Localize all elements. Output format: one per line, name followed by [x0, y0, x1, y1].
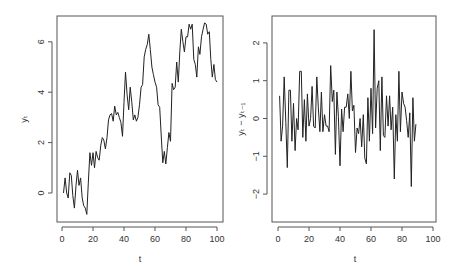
y-tick-label: 1 [251, 78, 261, 83]
y-tick-label: 6 [36, 39, 46, 44]
x-axis-label-right: t [354, 254, 357, 264]
x-axis-label-left: t [139, 254, 142, 264]
y-tick-label: 2 [251, 40, 261, 45]
x-tick-label: 100 [425, 234, 440, 244]
x-tick-label: 80 [181, 234, 191, 244]
y-axis-label-right: yₜ − yₜ₋₁ [236, 102, 246, 135]
y-tick-label: 0 [251, 116, 261, 121]
x-tick-label: 60 [366, 234, 376, 244]
x-tick-label: 0 [59, 234, 64, 244]
y-tick-label: 4 [36, 90, 46, 95]
series-line-right [280, 30, 416, 187]
x-tick-label: 20 [88, 234, 98, 244]
figure: 020406080100 0246 t yₜ 020406080100 −2−1… [0, 0, 462, 270]
y-axis-label-left: yₜ [19, 115, 29, 123]
x-tick-label: 40 [335, 234, 345, 244]
y-tick-label: −1 [251, 151, 261, 161]
x-tick-label: 20 [304, 234, 314, 244]
series-line-left [64, 23, 218, 215]
y-tick-label: 0 [36, 190, 46, 195]
y-axis-right: −2−1012 [251, 40, 267, 199]
y-axis-left: 0246 [36, 39, 52, 195]
x-tick-label: 0 [275, 234, 280, 244]
x-tick-label: 100 [209, 234, 224, 244]
x-tick-label: 80 [397, 234, 407, 244]
left-panel: 020406080100 0246 t yₜ [19, 16, 225, 264]
x-tick-label: 40 [119, 234, 129, 244]
y-tick-label: −2 [251, 189, 261, 199]
x-tick-label: 60 [150, 234, 160, 244]
x-axis-left: 020406080100 [59, 227, 224, 244]
x-axis-right: 020406080100 [275, 227, 440, 244]
y-tick-label: 2 [36, 140, 46, 145]
right-panel: 020406080100 −2−1012 t yₜ − yₜ₋₁ [236, 16, 441, 264]
